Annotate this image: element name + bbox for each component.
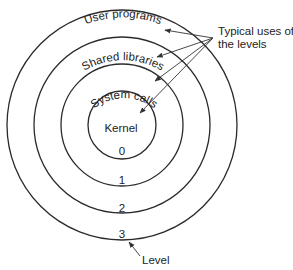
level-number-2: 2 bbox=[119, 202, 125, 214]
level-number-1: 1 bbox=[119, 174, 125, 186]
rings-diagram: User programs Shared libraries System ca… bbox=[0, 0, 293, 270]
level-number-3: 3 bbox=[119, 228, 125, 240]
annotation-level: Level bbox=[142, 254, 170, 266]
label-kernel: Kernel bbox=[104, 122, 137, 134]
label-user-programs: User programs bbox=[82, 7, 163, 26]
annotation-uses-line2: the levels bbox=[218, 38, 267, 50]
annotation-uses-line1: Typical uses of bbox=[218, 25, 293, 37]
arrow-to-system-calls bbox=[155, 38, 213, 81]
arrow-to-shared-libraries bbox=[157, 38, 213, 57]
arrow-to-kernel bbox=[140, 38, 213, 113]
arrow-to-level bbox=[129, 242, 140, 256]
label-system-calls: System calls bbox=[88, 88, 160, 110]
level-number-0: 0 bbox=[119, 145, 125, 157]
label-shared-libraries: Shared libraries bbox=[80, 50, 167, 72]
